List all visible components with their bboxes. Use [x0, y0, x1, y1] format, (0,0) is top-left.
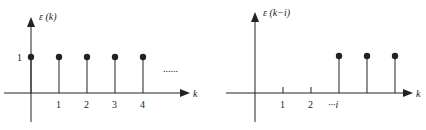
- left-x-tick-4: 4: [140, 99, 145, 110]
- right-y-arrow-icon: [251, 12, 259, 22]
- left-ylabel: ε (k): [39, 11, 57, 23]
- right-ylabel: ε (k−i): [263, 7, 291, 19]
- right-x-tick-2: 2: [308, 99, 313, 110]
- right-chart: [226, 12, 413, 122]
- left-y-tick-1: 1: [17, 52, 22, 63]
- left-x-tick-3: 3: [112, 99, 117, 110]
- left-continuation: ......: [163, 63, 178, 74]
- left-y-arrow-icon: [27, 17, 35, 27]
- left-x-arrow-icon: [180, 89, 190, 97]
- right-x-tick-i: ···i: [328, 99, 339, 110]
- left-xlabel: k: [193, 88, 198, 99]
- left-x-tick-2: 2: [84, 99, 89, 110]
- right-x-tick-1: 1: [280, 99, 285, 110]
- left-x-tick-1: 1: [56, 99, 61, 110]
- unit-step-charts: ε (k) 1 1 2 3 4 ...... k ε (k−i) 1 2 ···…: [0, 0, 426, 130]
- right-xlabel: k: [416, 88, 421, 99]
- right-x-arrow-icon: [403, 89, 413, 97]
